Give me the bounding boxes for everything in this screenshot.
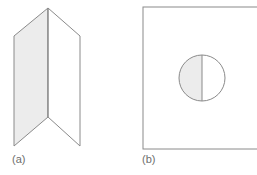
folded-sheet-right-face [48, 8, 80, 146]
panel-b-label: (b) [142, 153, 155, 165]
diagram-canvas [0, 0, 257, 175]
folded-sheet [14, 8, 80, 146]
circle-left-half [179, 55, 202, 101]
folded-sheet-left-face [14, 8, 48, 146]
panel-a-label: (a) [12, 153, 25, 165]
square-with-circle [143, 7, 257, 149]
